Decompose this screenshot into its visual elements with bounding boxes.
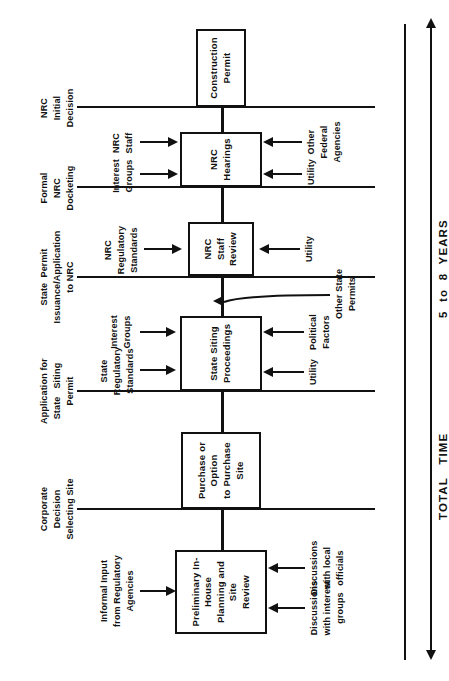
arrow-head-utility-nrc-hearings [263, 169, 273, 179]
arrow-shaft-other-federal-agencies [272, 141, 302, 143]
total-time-arrow-head-bottom [426, 650, 436, 660]
arrow-head-interest-groups-nrc [168, 169, 178, 179]
other-state-permits-curve [224, 295, 330, 302]
total-time-label-years: 5 to 8 YEARS [437, 219, 449, 318]
input-label-utility-nrc-staff-review: Utility [303, 214, 316, 284]
arrow-head-other-federal-agencies [263, 137, 273, 147]
arrow-shaft-utility-nrc-hearings [272, 173, 302, 175]
arrow-shaft-interest-groups-nrc [140, 173, 170, 175]
side-note-other-state-permits: Other State Permits [333, 252, 359, 336]
total-time-arrow-shaft [430, 28, 432, 650]
input-label-utility-nrc-hearings: Utility [305, 139, 318, 205]
total-time-baseline [404, 24, 406, 660]
arrow-head-nrc-regulatory-standards [172, 244, 182, 254]
input-label-interest-groups-nrc: Interest Groups [110, 133, 136, 219]
arrow-shaft-nrc-regulatory-standards [144, 248, 174, 250]
total-time-arrow-head-top [426, 18, 436, 28]
arrow-shaft-nrc-staff [140, 141, 170, 143]
total-time-label-total-time: TOTAL TIME [437, 433, 449, 520]
arrow-head-utility-nrc-staff-review [259, 244, 269, 254]
arrow-shaft-utility-nrc-staff-review [268, 248, 300, 250]
arrow-head-nrc-staff [168, 137, 178, 147]
arrow-head-other-state-permits [213, 296, 223, 306]
